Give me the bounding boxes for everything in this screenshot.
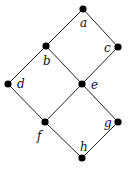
edge-d-f [8,84,45,122]
edge-c-e [82,47,118,84]
node-label-d: d [17,77,25,91]
node-label-a: a [80,16,87,30]
node-b [42,42,49,49]
node-label-e: e [91,78,98,92]
edge-b-d [8,46,46,84]
node-label-c: c [104,41,111,55]
node-d [4,80,11,87]
node-e [78,80,85,87]
node-label-b: b [43,54,51,68]
node-h [78,154,85,161]
edge-e-g [82,84,118,122]
edge-f-h [45,122,82,158]
hasse-diagram: abcdefgh [0,0,128,169]
edge-b-e [46,46,82,84]
node-g [114,118,121,125]
diagram-labels: abcdefgh [17,16,112,154]
edge-a-c [83,9,118,47]
node-f [41,118,48,125]
node-c [114,43,121,50]
edge-a-b [46,9,83,46]
node-label-g: g [104,116,112,130]
node-label-h: h [80,140,88,154]
node-a [79,5,86,12]
node-label-f: f [36,129,44,143]
edge-e-f [45,84,82,122]
